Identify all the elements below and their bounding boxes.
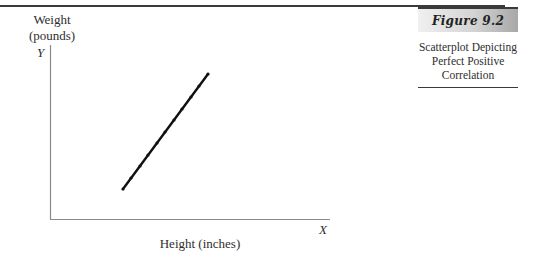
figure-number: Figure 9.2 xyxy=(432,14,504,28)
data-point xyxy=(155,141,158,144)
data-point xyxy=(206,72,209,75)
x-axis-label: Height (inches) xyxy=(140,236,260,252)
data-point xyxy=(180,107,183,110)
figure-caption-box: Figure 9.2 Scatterplot Depicting Perfect… xyxy=(418,7,518,88)
caption-line-3: Correlation xyxy=(418,68,518,82)
caption-line-1: Scatterplot Depicting xyxy=(418,40,518,54)
data-point xyxy=(138,164,141,167)
data-point xyxy=(146,153,149,156)
x-axis-symbol: X xyxy=(319,222,327,238)
figure-caption: Scatterplot Depicting Perfect Positive C… xyxy=(418,40,518,88)
data-point xyxy=(172,118,175,121)
data-point xyxy=(121,187,124,190)
data-point xyxy=(189,95,192,98)
figure-header: Figure 9.2 xyxy=(418,7,518,32)
data-point xyxy=(163,130,166,133)
data-point xyxy=(197,84,200,87)
caption-line-2: Perfect Positive xyxy=(418,54,518,68)
data-point xyxy=(129,176,132,179)
